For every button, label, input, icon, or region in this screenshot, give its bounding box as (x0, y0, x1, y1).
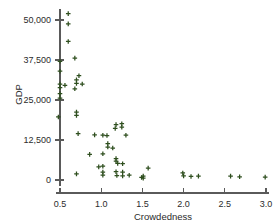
data-point (113, 126, 118, 131)
data-point (63, 83, 68, 88)
data-point (110, 146, 115, 151)
data-point (73, 56, 78, 61)
y-tick-label: 37,500 (23, 55, 51, 65)
x-tick-label: 0.5 (54, 199, 67, 209)
x-tick-label: 2.0 (177, 199, 190, 209)
data-point (127, 173, 132, 178)
data-point (120, 125, 125, 130)
data-point (181, 174, 186, 179)
data-point (58, 69, 63, 74)
data-point (92, 133, 97, 138)
x-tick-label: 1.5 (136, 199, 149, 209)
x-axis-title: Crowdedness (134, 211, 192, 222)
data-point (120, 161, 125, 166)
data-point (87, 152, 92, 157)
data-point (196, 174, 201, 179)
data-point (228, 174, 233, 179)
x-tick-label: 2.5 (219, 199, 232, 209)
data-point-group (56, 11, 267, 180)
data-point (101, 164, 106, 169)
data-point (66, 39, 71, 44)
scatter-chart: 012,50025,00037,50050,0000.51.01.52.02.5… (0, 0, 275, 224)
data-point (58, 85, 63, 90)
data-point (124, 133, 129, 138)
data-point (146, 166, 151, 171)
data-point (101, 151, 106, 156)
data-point (120, 174, 125, 179)
data-point (180, 171, 185, 176)
data-point (237, 175, 242, 180)
data-point (80, 82, 85, 87)
data-point (105, 133, 110, 138)
data-point (77, 73, 82, 78)
data-point (96, 165, 101, 170)
data-point (101, 133, 106, 138)
data-point (115, 173, 120, 178)
y-tick-label: 25,000 (23, 95, 51, 105)
data-point (66, 11, 71, 16)
x-tick-label: 3.0 (260, 199, 273, 209)
data-point (74, 113, 79, 118)
y-axis-title: GDP (13, 84, 24, 105)
data-point (114, 169, 119, 174)
data-point (74, 81, 79, 86)
data-point (74, 172, 79, 177)
y-tick-label: 12,500 (23, 135, 51, 145)
data-point (114, 122, 119, 127)
data-point (66, 22, 71, 27)
data-point (263, 175, 268, 180)
data-point (189, 174, 194, 179)
data-point (73, 87, 78, 92)
data-point (76, 131, 81, 136)
x-tick-label: 1.0 (95, 199, 108, 209)
plot-area: 012,50025,00037,50050,0000.51.01.52.02.5… (0, 0, 275, 224)
data-point (101, 173, 106, 178)
data-point (105, 145, 110, 150)
data-point (58, 91, 63, 96)
y-tick-label: 0 (46, 175, 51, 185)
y-tick-label: 50,000 (23, 15, 51, 25)
